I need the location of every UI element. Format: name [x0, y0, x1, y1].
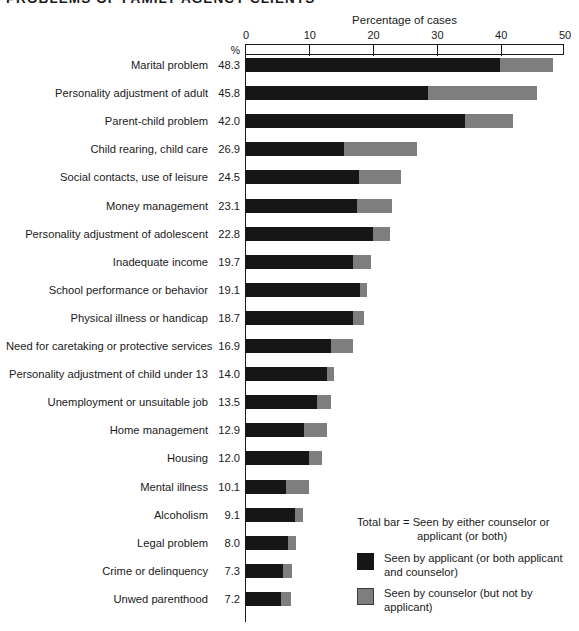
bar-segment-counselor [288, 536, 296, 550]
bar-segment-applicant [245, 227, 373, 241]
x-axis-tick [373, 45, 374, 56]
bar-segment-applicant [245, 592, 281, 606]
bar-segment-applicant [245, 199, 357, 213]
x-axis-tick-label: 0 [243, 29, 249, 41]
x-axis-tick-label: 40 [495, 29, 507, 41]
bar-row[interactable] [245, 255, 371, 269]
category-label: Child rearing, child care [6, 142, 208, 156]
legend-applicant-line2: and counselor) [384, 566, 577, 580]
value-label: 19.1 [210, 283, 240, 297]
legend-swatch-counselor-icon [357, 588, 374, 605]
value-label: 22.8 [210, 227, 240, 241]
bar-segment-counselor [344, 142, 417, 156]
value-label: 13.5 [210, 395, 240, 409]
value-label: 8.0 [210, 536, 240, 550]
bar-row[interactable] [245, 451, 322, 465]
bar-row[interactable] [245, 114, 513, 128]
bar-row[interactable] [245, 423, 327, 437]
category-label: Need for caretaking or protective servic… [6, 339, 208, 353]
bar-row[interactable] [245, 227, 390, 241]
bar-row[interactable] [245, 142, 417, 156]
value-label: 12.0 [210, 451, 240, 465]
bar-row[interactable] [245, 199, 392, 213]
bar-row[interactable] [245, 395, 331, 409]
category-label: Money management [6, 199, 208, 213]
bar-row[interactable] [245, 480, 309, 494]
bar-row[interactable] [245, 86, 537, 100]
bar-segment-applicant [245, 58, 500, 72]
value-label: 18.7 [210, 311, 240, 325]
x-axis-tick-label: 30 [431, 29, 443, 41]
x-axis-tick [501, 45, 502, 56]
value-label: 19.7 [210, 255, 240, 269]
value-label: 14.0 [210, 367, 240, 381]
bar-row[interactable] [245, 592, 291, 606]
bar-segment-counselor [309, 451, 322, 465]
bar-row[interactable] [245, 311, 364, 325]
value-label: 16.9 [210, 339, 240, 353]
legend-total-line1: Total bar = Seen by either counselor or [357, 515, 577, 529]
bar-row[interactable] [245, 508, 303, 522]
bar-segment-counselor [286, 480, 309, 494]
bar-row[interactable] [245, 283, 367, 297]
legend-swatch-applicant-icon [357, 553, 374, 570]
bar-segment-counselor [359, 170, 402, 184]
x-axis-title: Percentage of cases [245, 14, 564, 26]
legend: Total bar = Seen by either counselor or … [357, 515, 577, 622]
bar-segment-counselor [281, 592, 291, 606]
bar-segment-applicant [245, 367, 327, 381]
x-axis-tick-label: 20 [367, 29, 379, 41]
bar-segment-counselor [465, 114, 513, 128]
value-label: 23.1 [210, 199, 240, 213]
category-label: Unwed parenthood [6, 592, 208, 606]
x-axis-tick [437, 45, 438, 56]
bar-segment-counselor [327, 367, 335, 381]
bar-segment-counselor [283, 564, 292, 578]
bar-segment-counselor [373, 227, 391, 241]
bar-segment-applicant [245, 142, 344, 156]
bar-segment-applicant [245, 311, 353, 325]
legend-total-line2: applicant (or both) [357, 529, 577, 543]
bar-row[interactable] [245, 367, 334, 381]
x-axis-tick-label: 50 [559, 29, 571, 41]
bar-row[interactable] [245, 339, 353, 353]
legend-total-note: Total bar = Seen by either counselor or … [357, 515, 577, 543]
category-label: School performance or behavior [6, 283, 208, 297]
bar-row[interactable] [245, 170, 401, 184]
bar-row[interactable] [245, 58, 553, 72]
bar-segment-counselor [360, 283, 367, 297]
value-label: 12.9 [210, 423, 240, 437]
bar-segment-applicant [245, 480, 286, 494]
bar-row[interactable] [245, 564, 292, 578]
value-label-column: 48.345.842.026.924.523.122.819.719.118.7… [210, 0, 240, 631]
value-label: 9.1 [210, 508, 240, 522]
bar-segment-applicant [245, 255, 353, 269]
category-label: Personality adjustment of adult [6, 86, 208, 100]
legend-item-counselor[interactable]: Seen by counselor (but not by applicant) [357, 587, 577, 614]
bar-segment-applicant [245, 564, 283, 578]
bar-segment-counselor [331, 339, 353, 353]
value-label: 45.8 [210, 86, 240, 100]
category-label: Legal problem [6, 536, 208, 550]
category-label: Inadequate income [6, 255, 208, 269]
category-label: Alcoholism [6, 508, 208, 522]
value-label: 26.9 [210, 142, 240, 156]
bar-segment-applicant [245, 339, 331, 353]
value-label: 24.5 [210, 170, 240, 184]
category-label: Physical illness or handicap [6, 311, 208, 325]
category-label: Social contacts, use of leisure [6, 170, 208, 184]
legend-item-applicant[interactable]: Seen by applicant (or both applicant and… [357, 552, 577, 579]
category-label-column: Marital problemPersonality adjustment of… [0, 0, 208, 631]
bar-segment-counselor [304, 423, 328, 437]
bar-row[interactable] [245, 536, 296, 550]
category-label: Personality adjustment of child under 13 [6, 367, 208, 381]
category-label: Unemployment or unsuitable job [6, 395, 208, 409]
legend-counselor-line1: Seen by counselor (but not by applicant) [384, 587, 577, 614]
category-label: Personality adjustment of adolescent [6, 227, 208, 241]
x-axis-tick [309, 45, 310, 56]
bar-segment-counselor [500, 58, 553, 72]
bar-segment-counselor [295, 508, 303, 522]
bar-segment-applicant [245, 114, 465, 128]
bar-segment-counselor [357, 199, 393, 213]
bar-segment-applicant [245, 395, 317, 409]
